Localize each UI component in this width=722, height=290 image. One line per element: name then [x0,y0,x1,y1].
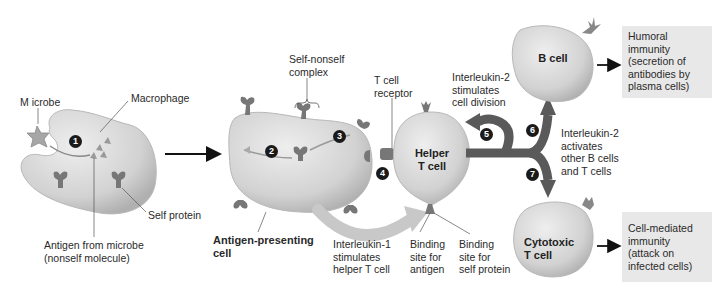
cell-mediated-immunity-box: Cell-mediated immunity (attack on infect… [622,212,712,282]
humoral-immunity-box: Humoral immunity (secretion of antibodie… [622,26,712,98]
interleukin2-division-label: Interleukin-2 stimulates cell division [452,71,510,109]
helper-t-cell-label: Helper T cell [404,147,460,173]
macrophage-cell [21,110,156,214]
self-protein-label: Self protein [148,209,201,222]
macrophage-label: Macrophage [131,92,189,105]
t-cell-receptor-label: T cell receptor [374,74,413,99]
antigen-from-microbe-label: Antigen from microbe (nonself molecule) [44,239,144,264]
interleukin2-activates-label: Interleukin-2 activates other B cells an… [561,127,619,177]
self-nonself-complex-label: Self-nonself complex [289,53,344,78]
step-badge-7: 7 [526,168,539,181]
binding-site-self-label: Binding site for self protein [459,238,510,276]
immune-response-diagram: M icrobe Macrophage Self protein Antigen… [0,0,722,290]
step-badge-4: 4 [376,167,389,180]
antigen-presenting-cell-label: Antigen-presenting cell [213,234,314,260]
step-badge-3: 3 [333,130,346,143]
antigen-presenting-cell [229,97,372,214]
step-badge-2: 2 [265,145,278,158]
interleukin1-arrow [318,210,410,235]
b-cell-label: B cell [528,52,578,65]
interleukin1-label: Interleukin-1 stimulates helper T cell [333,238,391,276]
cytotoxic-t-cell-label: Cytotoxic T cell [524,236,590,262]
step-badge-1: 1 [69,135,82,148]
binding-site-antigen-label: Binding site for antigen [410,238,445,276]
microbe-icon [27,126,49,147]
step-badge-5: 5 [480,128,493,141]
microbe-label: M icrobe [20,96,60,109]
step-badge-6: 6 [526,124,539,137]
